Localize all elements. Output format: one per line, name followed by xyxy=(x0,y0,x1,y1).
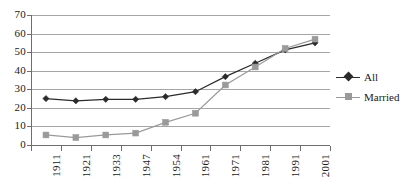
x-tick-mark xyxy=(240,146,241,151)
legend-marker-diamond-icon xyxy=(344,72,354,82)
x-tick-label: 1954 xyxy=(171,154,182,177)
gridline xyxy=(31,71,330,72)
y-tick-mark xyxy=(27,126,32,127)
gridline xyxy=(31,89,330,90)
y-tick-label: 60 xyxy=(0,28,26,39)
gridline xyxy=(31,34,330,35)
plot-area xyxy=(31,15,330,145)
y-tick-mark xyxy=(27,52,32,53)
x-tick-mark xyxy=(151,146,152,151)
y-tick-label: 50 xyxy=(0,46,26,57)
x-tick-mark xyxy=(31,146,32,151)
x-tick-label: 1921 xyxy=(81,154,92,177)
x-tick-mark xyxy=(61,146,62,151)
x-tick-mark xyxy=(300,146,301,151)
x-tick-mark xyxy=(210,146,211,151)
x-tick-label: 1981 xyxy=(260,154,271,177)
gridline xyxy=(31,52,330,53)
x-tick-mark xyxy=(121,146,122,151)
y-tick-mark xyxy=(27,34,32,35)
x-tick-label: 1947 xyxy=(141,154,152,177)
x-tick-label: 1911 xyxy=(51,154,62,177)
legend-entry-married[interactable]: Married xyxy=(336,88,408,108)
legend: All Married xyxy=(336,68,408,108)
y-tick-label: 20 xyxy=(0,102,26,113)
y-tick-label: 30 xyxy=(0,83,26,94)
x-tick-label: 1961 xyxy=(200,154,211,177)
x-tick-label: 1971 xyxy=(230,154,241,177)
y-tick-label: 70 xyxy=(0,9,26,20)
x-tick-mark xyxy=(91,146,92,151)
legend-marker-square-icon xyxy=(345,93,352,100)
x-tick-label: 2001 xyxy=(320,154,331,177)
x-tick-label: 1933 xyxy=(111,154,122,177)
y-tick-label: 40 xyxy=(0,65,26,76)
y-tick-mark xyxy=(27,108,32,109)
y-tick-mark xyxy=(27,71,32,72)
y-tick-label: 10 xyxy=(0,120,26,131)
gridline xyxy=(31,108,330,109)
x-tick-label: 1991 xyxy=(290,154,301,177)
legend-entry-all[interactable]: All xyxy=(336,68,408,88)
line-chart: 010203040506070 191119211933194719541961… xyxy=(0,0,408,192)
x-tick-mark xyxy=(181,146,182,151)
gridline xyxy=(31,15,330,16)
legend-label-married: Married xyxy=(364,91,399,103)
legend-label-all: All xyxy=(364,71,378,83)
y-tick-label: 0 xyxy=(0,139,26,150)
x-tick-mark xyxy=(330,146,331,151)
y-tick-mark xyxy=(27,89,32,90)
x-tick-mark xyxy=(270,146,271,151)
y-tick-mark xyxy=(27,15,32,16)
gridline xyxy=(31,126,330,127)
